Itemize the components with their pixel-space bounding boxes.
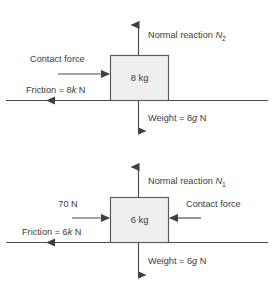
lower-friction-text: Friction = 6: [22, 227, 68, 237]
lower-weight-unit: N: [197, 256, 206, 266]
upper-weight-label: Weight = 8g N: [148, 113, 206, 123]
lower-friction-unit: N: [72, 227, 81, 237]
upper-friction-label: Friction = 8k N: [26, 85, 85, 95]
lower-normal-reaction-label: Normal reaction N1: [148, 176, 226, 188]
physics-force-diagram-canvas: 8 kg Normal reaction N2 Weight = 8g N Co…: [0, 0, 274, 294]
upper-weight-unit: N: [197, 113, 206, 123]
lower-applied-force-label: 70 N: [58, 199, 77, 209]
lower-weight-text: Weight = 6: [148, 256, 192, 266]
lower-friction-label: Friction = 6k N: [22, 227, 81, 237]
upper-friction-text: Friction = 8: [26, 85, 72, 95]
upper-diagram-group: 8 kg Normal reaction N2 Weight = 8g N Co…: [6, 25, 268, 131]
lower-diagram-group: 6 kg Normal reaction N1 Weight = 6g N 70…: [6, 167, 268, 275]
upper-normal-reaction-text: Normal reaction: [148, 30, 215, 40]
lower-block-mass-label: 6 kg: [131, 214, 149, 225]
upper-contact-force-label: Contact force: [30, 54, 85, 64]
lower-weight-label: Weight = 6g N: [148, 256, 206, 266]
lower-normal-reaction-text: Normal reaction: [148, 176, 215, 186]
upper-normal-reaction-subscript: 2: [222, 35, 226, 42]
force-diagram-figure: 8 kg Normal reaction N2 Weight = 8g N Co…: [0, 0, 274, 294]
upper-friction-unit: N: [76, 85, 85, 95]
upper-block-mass-label: 8 kg: [131, 72, 149, 83]
upper-weight-text: Weight = 8: [148, 113, 192, 123]
upper-normal-reaction-label: Normal reaction N2: [148, 30, 226, 42]
lower-normal-reaction-subscript: 1: [222, 181, 226, 188]
lower-contact-force-label: Contact force: [186, 199, 241, 209]
